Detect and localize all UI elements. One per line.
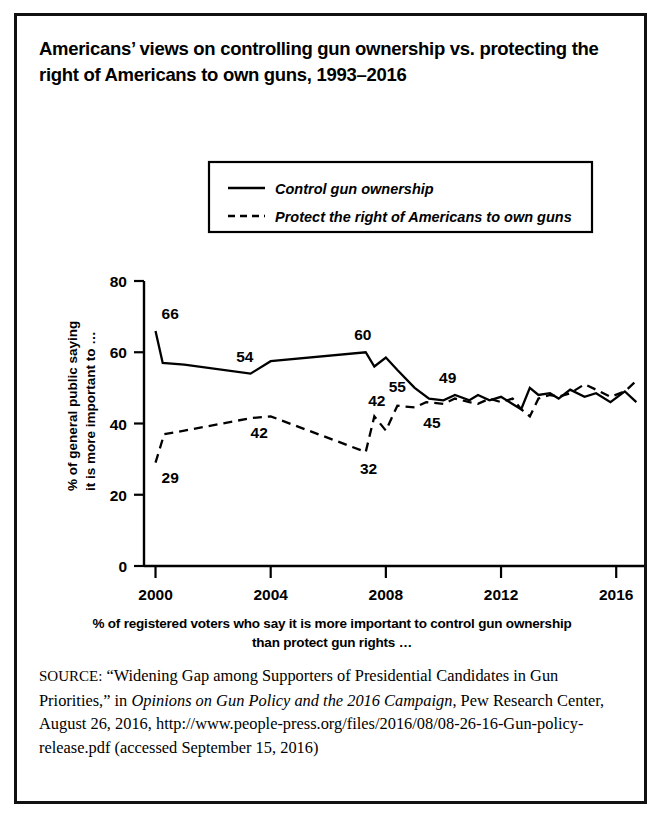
chart-series [156, 331, 637, 463]
y-tick-label: 20 [110, 487, 127, 504]
y-axis-ticks: 020406080 [110, 273, 144, 575]
chart-legend: Control gun ownership Protect the right … [209, 162, 592, 232]
chart-axes [144, 281, 644, 566]
data-point-label: 42 [251, 424, 268, 441]
data-point-label: 54 [236, 348, 254, 365]
data-point-label: 29 [162, 469, 180, 486]
x-axis-ticks: 20002004200820122016 [138, 566, 634, 603]
legend-label-control: Control gun ownership [275, 181, 434, 197]
y-tick-label: 0 [118, 558, 127, 575]
y-tick-label: 60 [110, 344, 127, 361]
x-tick-label: 2004 [253, 586, 288, 603]
source-publication-title: Opinions on Gun Policy and the 2016 Camp… [131, 691, 452, 710]
source-label: SOURCE: [39, 668, 102, 684]
series-line-1 [156, 331, 637, 409]
data-point-label: 49 [439, 369, 457, 386]
data-point-label: 32 [360, 460, 377, 477]
data-point-label: 66 [162, 305, 180, 322]
figure-panel: Americans’ views on controlling gun owne… [14, 13, 647, 804]
y-axis-title-line1: % of general public saying [65, 321, 80, 491]
line-chart: Control gun ownership Protect the right … [17, 136, 644, 666]
chart-canvas: Control gun ownership Protect the right … [17, 136, 644, 666]
y-axis-title-line2: it is more important to … [83, 331, 98, 491]
x-tick-label: 2000 [138, 586, 172, 603]
page-title: Americans’ views on controlling gun owne… [39, 36, 629, 88]
data-point-label: 45 [423, 414, 441, 431]
data-point-label: 60 [354, 326, 371, 343]
data-point-label: 42 [368, 392, 385, 409]
x-tick-label: 2016 [599, 586, 634, 603]
x-tick-label: 2008 [369, 586, 404, 603]
x-tick-label: 2012 [484, 586, 518, 603]
y-tick-label: 80 [110, 273, 127, 290]
x-axis-caption: % of registered voters who say it is mor… [77, 614, 587, 652]
data-point-label: 55 [389, 378, 407, 395]
chart-point-labels: 665460554946294232424552 [162, 305, 644, 486]
source-note: SOURCE: “Widening Gap among Supporters o… [39, 664, 631, 759]
legend-label-protect: Protect the right of Americans to own gu… [275, 209, 572, 225]
y-axis-title: % of general public saying it is more im… [65, 321, 98, 491]
y-tick-label: 40 [110, 416, 127, 433]
